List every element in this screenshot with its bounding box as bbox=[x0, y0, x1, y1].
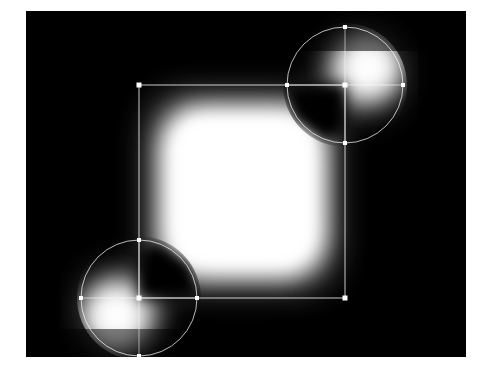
scalar-field-heatmap bbox=[26, 11, 466, 357]
plot-area bbox=[26, 11, 466, 357]
field-rect-hotspot bbox=[176, 121, 310, 261]
figure-canvas: Signed distance field of rectangle with … bbox=[0, 0, 481, 372]
